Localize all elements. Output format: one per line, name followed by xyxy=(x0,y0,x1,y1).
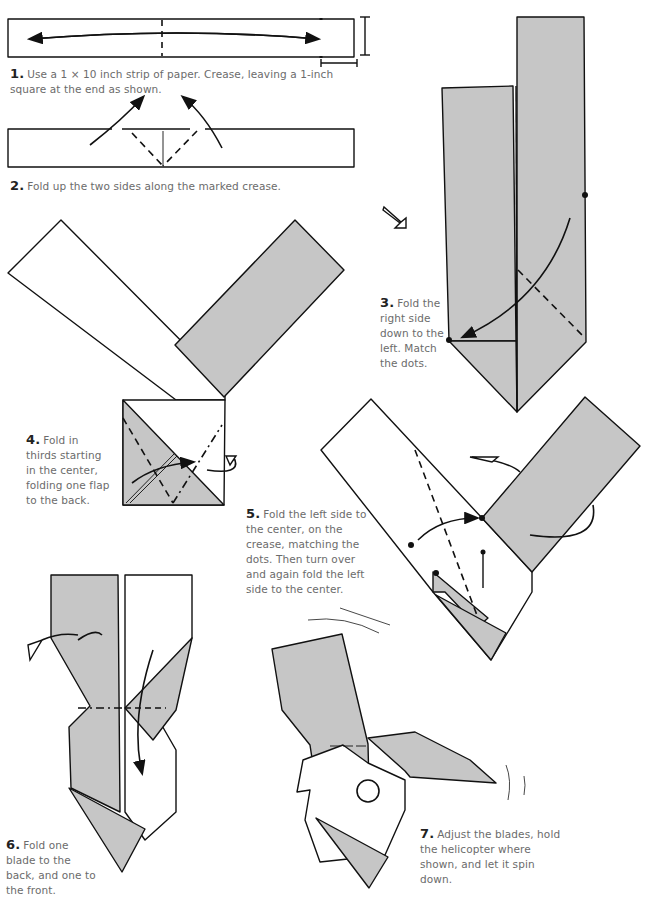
step-text: Fold the left side to the center, on the… xyxy=(246,508,367,595)
step-number: 5. xyxy=(246,506,260,521)
step-number: 4. xyxy=(26,432,40,447)
next-step-arrow-icon xyxy=(383,207,406,228)
step-number: 6. xyxy=(6,837,20,852)
step-number: 1. xyxy=(10,66,24,81)
step-4-caption: 4.Fold in thirds starting in the center,… xyxy=(26,432,110,508)
step-number: 2. xyxy=(10,178,24,193)
step-3-caption: 3.Fold the right side down to the left. … xyxy=(380,295,444,371)
dimension-height-icon xyxy=(360,17,370,55)
step-5-caption: 5.Fold the left side to the center, on t… xyxy=(246,506,376,597)
step-6-caption: 6.Fold one blade to the back, and one to… xyxy=(6,837,100,898)
step-7-caption: 7.Adjust the blades, hold the helicopter… xyxy=(420,826,570,887)
step-number: 7. xyxy=(420,826,434,841)
step-text: Adjust the blades, hold the helicopter w… xyxy=(420,828,560,885)
step-1-caption: 1.Use a 1 × 10 inch strip of paper. Crea… xyxy=(10,66,350,97)
step-2-caption: 2.Fold up the two sides along the marked… xyxy=(10,178,310,194)
step-2-diagram xyxy=(8,97,354,167)
hold-point-icon xyxy=(357,780,379,802)
step-text: Fold up the two sides along the marked c… xyxy=(27,180,281,192)
step-1-diagram xyxy=(8,17,370,67)
step-number: 3. xyxy=(380,295,394,310)
step-6-diagram xyxy=(28,575,192,872)
step-text: Use a 1 × 10 inch strip of paper. Crease… xyxy=(10,68,333,95)
